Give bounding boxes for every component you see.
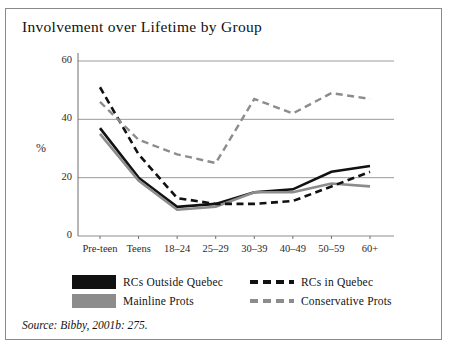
legend-label: RCs Outside Quebec <box>123 276 223 288</box>
series-line <box>100 87 370 204</box>
y-axis-tick-label: 0 <box>42 229 72 240</box>
legend-swatch-icon <box>250 275 294 289</box>
y-axis-title: % <box>36 141 46 156</box>
legend-item: Mainline Prots <box>72 294 194 308</box>
figure-frame: Involvement over Lifetime by Group % 020… <box>5 8 442 340</box>
legend-item: RCs Outside Quebec <box>72 275 223 289</box>
legend-item: Conservative Prots <box>250 294 392 308</box>
legend-label: Mainline Prots <box>123 295 194 307</box>
y-axis-tick-label: 40 <box>42 112 72 123</box>
y-axis-tick-label: 60 <box>42 54 72 65</box>
legend-label: Conservative Prots <box>301 295 392 307</box>
series-line <box>100 128 370 207</box>
legend-item: RCs in Quebec <box>250 275 373 289</box>
chart-legend: RCs Outside QuebecRCs in QuebecMainline … <box>72 275 402 315</box>
y-axis-tick-label: 20 <box>42 171 72 182</box>
gridlines-group <box>78 61 394 236</box>
data-series-group <box>100 87 370 210</box>
legend-swatch-icon <box>250 294 294 308</box>
legend-label: RCs in Quebec <box>301 276 373 288</box>
legend-swatch-icon <box>72 275 116 289</box>
x-axis-tick-label: 60+ <box>342 243 398 254</box>
legend-swatch-icon <box>72 294 116 308</box>
source-note: Source: Bibby, 2001b: 275. <box>22 319 148 331</box>
series-line <box>100 93 370 163</box>
